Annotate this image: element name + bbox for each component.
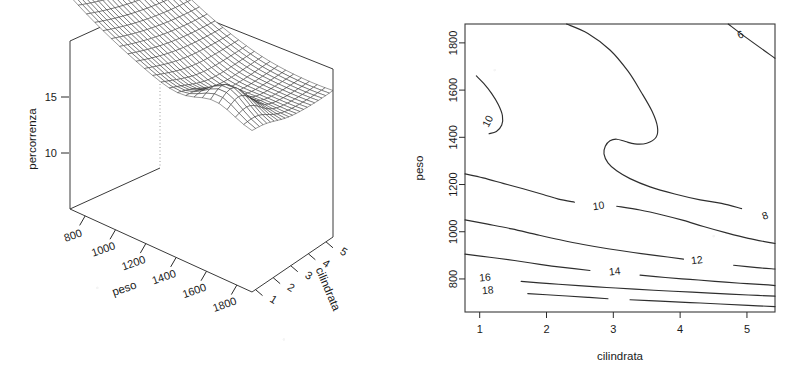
y-tick-label: 2: [285, 281, 297, 294]
contour-level-label: 12: [690, 253, 703, 266]
x-axis-title: peso: [110, 278, 137, 297]
contour-level-label: 16: [479, 271, 492, 284]
contour-level-label: 8: [760, 209, 770, 222]
persp-axes: 1015percorrenza80010001200140016001800pe…: [26, 91, 350, 314]
surface-mesh: [70, 0, 333, 131]
contour-line: [528, 294, 608, 299]
x-tick-label: 1000: [90, 239, 117, 258]
perspective-plot-svg: 1015percorrenza80010001200140016001800pe…: [0, 0, 405, 369]
y-tick-label: 1800: [447, 31, 459, 55]
x-tick-label: 1: [477, 323, 483, 335]
x-tick-label: 1400: [150, 267, 177, 286]
z-axis-title: percorrenza: [26, 108, 38, 170]
contour-line: [465, 220, 683, 259]
z-tick-label: 15: [45, 91, 57, 103]
contour-plot-svg: 80010001200140016001800peso12345cilindra…: [405, 0, 811, 369]
figure-canvas: 1015percorrenza80010001200140016001800pe…: [0, 0, 811, 369]
contour-line: [465, 174, 575, 202]
contour-line: [521, 281, 775, 296]
x-axis-title: cilindrata: [597, 350, 644, 362]
x-tick-label: 4: [677, 323, 683, 335]
y-axis-title: cilindrata: [314, 265, 343, 313]
y-tick-label: 3: [303, 269, 315, 282]
y-tick-label: 5: [338, 245, 350, 258]
contour-line: [617, 206, 775, 243]
contour-line: [640, 275, 775, 285]
contour-line: [567, 24, 742, 209]
contour-line: [734, 265, 775, 269]
contour-labels: 68101012141618: [479, 28, 770, 297]
perspective-plot-panel: 1015percorrenza80010001200140016001800pe…: [0, 0, 405, 369]
contour-lines: [465, 24, 775, 307]
contour-line: [630, 300, 775, 307]
x-tick-label: 1200: [120, 253, 147, 272]
contour-plot-panel: 80010001200140016001800peso12345cilindra…: [405, 0, 811, 369]
contour-level-label: 14: [608, 264, 621, 277]
contour-line: [465, 254, 590, 270]
y-tick-label: 1: [268, 293, 280, 306]
x-tick-label: 1800: [211, 295, 238, 314]
x-tick-label: 800: [62, 226, 83, 243]
y-tick-label: 800: [447, 270, 459, 288]
x-tick-label: 5: [744, 323, 750, 335]
x-tick-label: 1600: [181, 281, 208, 300]
y-tick-label: 1200: [447, 172, 459, 196]
y-tick-label: 1000: [447, 219, 459, 243]
x-tick-label: 2: [543, 323, 549, 335]
y-tick-label: 1600: [447, 78, 459, 102]
contour-level-label: 10: [479, 113, 495, 129]
contour-level-label: 18: [481, 283, 494, 296]
y-tick-label: 1400: [447, 125, 459, 149]
x-tick-label: 3: [610, 323, 616, 335]
y-axis-title: peso: [413, 156, 425, 181]
contour-level-label: 6: [735, 28, 745, 41]
contour-level-label: 10: [592, 199, 605, 213]
z-tick-label: 10: [45, 147, 57, 159]
